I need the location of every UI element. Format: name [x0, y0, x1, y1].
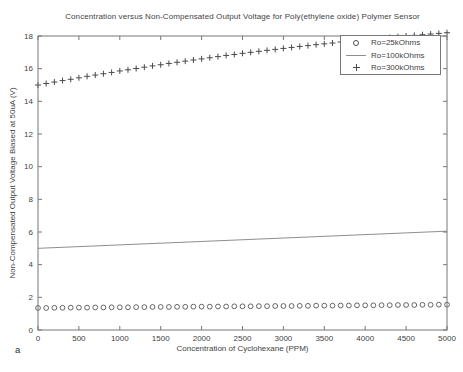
data-point-plus — [125, 67, 131, 73]
y-tick-label: 6 — [29, 228, 34, 237]
data-point-circle — [330, 303, 335, 308]
data-point-plus — [117, 68, 123, 74]
data-point-circle — [60, 305, 65, 310]
series-ro25kohms — [36, 302, 450, 310]
data-point-circle — [232, 304, 237, 309]
data-point-circle — [297, 303, 302, 308]
data-point-circle — [183, 304, 188, 309]
data-point-circle — [436, 302, 441, 307]
data-point-circle — [224, 304, 229, 309]
data-point-circle — [134, 305, 139, 310]
line-marker-icon — [346, 55, 366, 56]
x-tick-label: 500 — [72, 334, 86, 343]
data-point-plus — [76, 75, 82, 81]
data-point-circle — [428, 302, 433, 307]
legend-label: Ro=25kOhms — [371, 38, 420, 47]
data-point-plus — [329, 40, 335, 46]
legend-entry-ro100kohms: Ro=100kOhms — [341, 49, 440, 61]
data-point-plus — [280, 45, 286, 51]
data-point-circle — [281, 304, 286, 309]
data-point-circle — [216, 304, 221, 309]
data-point-circle — [371, 303, 376, 308]
data-point-plus — [150, 63, 156, 69]
data-point-circle — [404, 303, 409, 308]
data-point-plus — [223, 52, 229, 58]
data-point-plus — [60, 78, 66, 84]
data-point-plus — [141, 64, 147, 70]
data-point-plus — [199, 56, 205, 62]
data-point-plus — [313, 42, 319, 48]
data-point-circle — [338, 303, 343, 308]
data-point-circle — [117, 305, 122, 310]
legend: Ro=25kOhms Ro=100kOhms Ro=300kOhms — [340, 35, 441, 75]
data-point-circle — [52, 305, 57, 310]
data-point-circle — [346, 303, 351, 308]
data-point-circle — [68, 305, 73, 310]
data-point-plus — [182, 58, 188, 64]
y-tick-label: 14 — [24, 97, 33, 106]
x-tick-label: 1500 — [152, 334, 170, 343]
data-point-circle — [363, 303, 368, 308]
data-point-circle — [240, 304, 245, 309]
x-tick-label: 3500 — [315, 334, 333, 343]
data-point-plus — [321, 41, 327, 47]
figure-panel: 0500100015002000250030003500400045005000… — [0, 0, 463, 372]
y-tick-label: 2 — [29, 293, 34, 302]
x-tick-label: 2500 — [234, 334, 252, 343]
data-point-circle — [322, 303, 327, 308]
y-tick-label: 18 — [24, 32, 33, 41]
data-point-circle — [166, 305, 171, 310]
data-point-circle — [306, 303, 311, 308]
data-point-plus — [272, 46, 278, 52]
data-point-circle — [420, 302, 425, 307]
data-point-plus — [43, 81, 49, 87]
data-point-plus — [444, 30, 450, 36]
x-tick-label: 0 — [36, 334, 41, 343]
data-point-plus — [207, 55, 213, 61]
data-point-plus — [84, 73, 90, 79]
data-point-plus — [68, 76, 74, 82]
data-point-circle — [248, 304, 253, 309]
data-point-circle — [109, 305, 114, 310]
data-point-plus — [166, 60, 172, 66]
data-point-plus — [297, 43, 303, 49]
data-point-circle — [191, 304, 196, 309]
x-axis-label: Concentration of Cyclohexane (PPM) — [38, 344, 447, 353]
data-point-plus — [100, 71, 106, 77]
data-point-circle — [314, 303, 319, 308]
plus-marker-icon — [353, 64, 360, 71]
data-point-circle — [126, 305, 131, 310]
data-point-plus — [190, 57, 196, 63]
line-series — [38, 231, 447, 248]
x-tick-label: 1000 — [111, 334, 129, 343]
data-point-circle — [379, 303, 384, 308]
data-point-circle — [93, 305, 98, 310]
data-point-plus — [240, 50, 246, 56]
data-point-plus — [133, 66, 139, 72]
y-axis-label: Non-Compensated Output Voltage Biased at… — [8, 87, 17, 278]
data-point-plus — [158, 62, 164, 68]
x-tick-label: 4000 — [356, 334, 374, 343]
circle-marker-icon — [353, 40, 359, 46]
data-point-plus — [51, 79, 57, 85]
x-tick-label: 3000 — [275, 334, 293, 343]
data-point-plus — [248, 49, 254, 55]
data-point-plus — [92, 72, 98, 78]
data-point-circle — [199, 304, 204, 309]
data-point-circle — [101, 305, 106, 310]
data-point-circle — [142, 305, 147, 310]
data-point-circle — [44, 306, 49, 311]
data-point-circle — [265, 304, 270, 309]
data-point-circle — [412, 303, 417, 308]
subfigure-label: a — [15, 344, 20, 355]
data-point-circle — [85, 305, 90, 310]
y-tick-label: 4 — [29, 260, 34, 269]
x-tick-label: 4500 — [397, 334, 415, 343]
series-ro100kohms — [38, 231, 447, 248]
data-point-plus — [231, 51, 237, 57]
y-tick-label: 12 — [24, 130, 33, 139]
x-tick-label: 5000 — [438, 334, 456, 343]
y-tick-label: 0 — [29, 326, 34, 335]
data-point-plus — [256, 48, 262, 54]
data-point-circle — [150, 305, 155, 310]
